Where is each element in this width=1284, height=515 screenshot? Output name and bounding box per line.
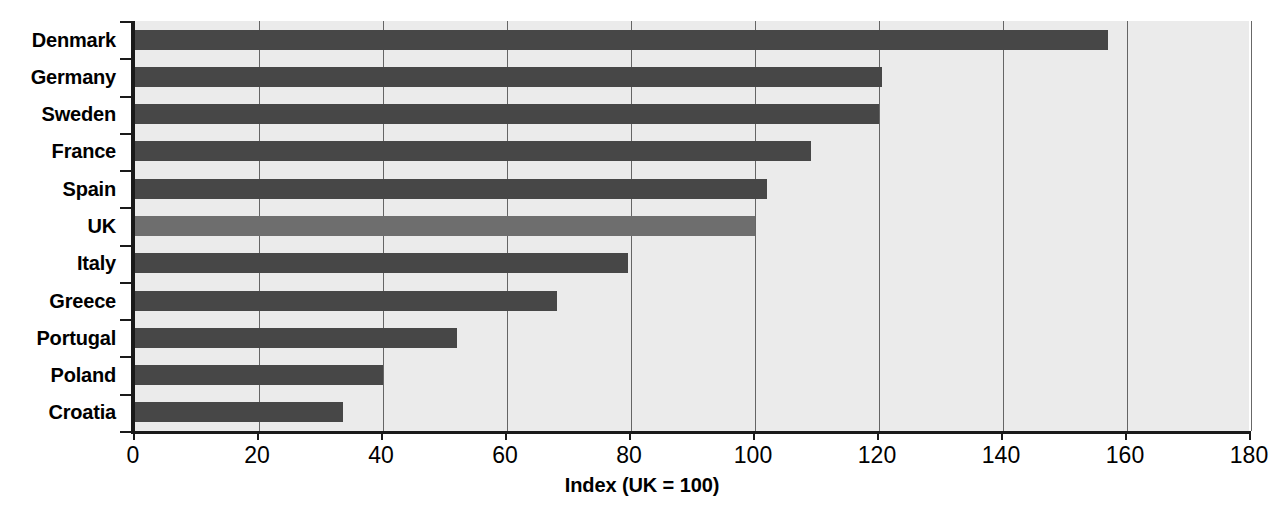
category-label-poland: Poland [0,365,116,385]
bar-germany[interactable] [135,67,882,87]
category-label-croatia: Croatia [0,402,116,422]
y-axis-tick [120,319,132,321]
bar-croatia[interactable] [135,402,343,422]
y-axis-tick [120,282,132,284]
category-label-spain: Spain [0,179,116,199]
x-axis-tick-20 [257,431,259,440]
y-axis-tick [120,58,132,60]
bar-italy[interactable] [135,253,628,273]
x-axis-tick-120 [877,431,879,440]
y-axis-line [131,21,134,434]
y-axis-tick [120,133,132,135]
bar-sweden[interactable] [135,104,879,124]
bar-poland[interactable] [135,365,383,385]
bar-band [135,21,1249,58]
bar-greece[interactable] [135,291,557,311]
category-label-france: France [0,141,116,161]
plot-area [133,21,1249,431]
bar-band [135,207,1249,244]
bar-france[interactable] [135,141,811,161]
category-label-denmark: Denmark [0,30,116,50]
category-label-sweden: Sweden [0,104,116,124]
x-axis-label-120: 120 [837,444,917,467]
y-axis-tick [120,356,132,358]
category-label-germany: Germany [0,67,116,87]
category-label-portugal: Portugal [0,328,116,348]
x-axis-tick-180 [1249,431,1251,440]
bar-band [135,245,1249,282]
x-axis-label-100: 100 [713,444,793,467]
y-axis-tick [120,394,132,396]
y-axis-tick [120,21,132,23]
x-axis-tick-60 [505,431,507,440]
x-axis-label-80: 80 [589,444,669,467]
x-axis-label-180: 180 [1209,444,1284,467]
y-axis-tick [120,96,132,98]
bar-chart: DenmarkGermanySwedenFranceSpainUKItalyGr… [0,0,1284,515]
x-axis-tick-40 [381,431,383,440]
y-axis-tick [120,245,132,247]
x-axis-tick-0 [133,431,135,440]
x-axis-line [133,431,1250,434]
bar-band [135,96,1249,133]
category-label-greece: Greece [0,291,116,311]
x-axis-tick-80 [629,431,631,440]
category-label-uk: UK [0,216,116,236]
y-axis-tick [120,207,132,209]
bar-uk[interactable] [135,216,755,236]
bar-band [135,170,1249,207]
bar-band [135,282,1249,319]
bar-denmark[interactable] [135,30,1108,50]
y-axis-tick [120,431,132,433]
x-axis-label-40: 40 [341,444,421,467]
x-axis-tick-100 [753,431,755,440]
bar-spain[interactable] [135,179,767,199]
y-axis-tick [120,170,132,172]
x-axis-label-60: 60 [465,444,545,467]
gridline-180 [1251,21,1252,431]
x-axis-title: Index (UK = 100) [0,474,1284,497]
x-axis-label-0: 0 [93,444,173,467]
bar-portugal[interactable] [135,328,457,348]
bar-band [135,319,1249,356]
x-axis-tick-160 [1125,431,1127,440]
x-axis-label-20: 20 [217,444,297,467]
category-label-italy: Italy [0,253,116,273]
x-axis-tick-140 [1001,431,1003,440]
bar-band [135,58,1249,95]
x-axis-label-140: 140 [961,444,1041,467]
x-axis-label-160: 160 [1085,444,1165,467]
bar-band [135,394,1249,431]
bar-band [135,356,1249,393]
bar-band [135,133,1249,170]
